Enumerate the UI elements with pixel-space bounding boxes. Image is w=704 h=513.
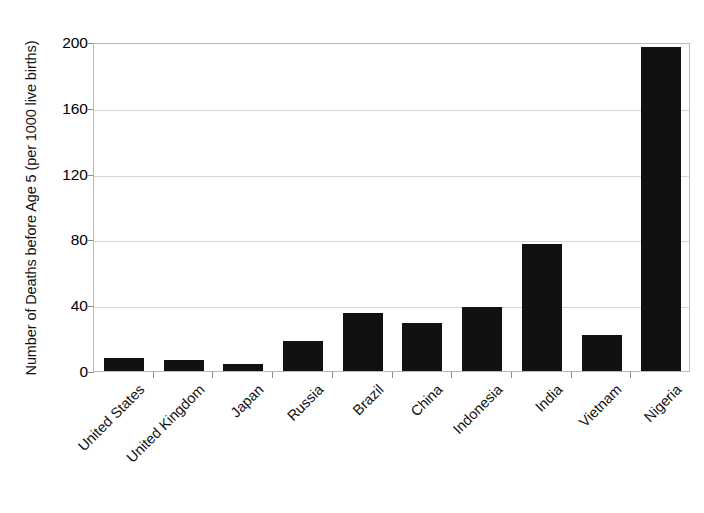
gridline [94, 176, 689, 177]
bar [402, 323, 442, 371]
x-tick-mark [451, 372, 452, 378]
gridline [94, 307, 689, 308]
x-tick-mark [212, 372, 213, 378]
x-axis-label: United States [24, 382, 148, 506]
plot-area [93, 43, 690, 372]
bar [582, 335, 622, 371]
y-tick-label: 40 [8, 298, 88, 314]
bar [164, 360, 204, 372]
x-axis-label: Japan [143, 382, 267, 506]
y-tick-label: 0 [8, 364, 88, 380]
x-tick-mark [630, 372, 631, 378]
y-tick-mark [87, 372, 94, 373]
x-tick-mark [153, 372, 154, 378]
x-tick-mark [511, 372, 512, 378]
bar [462, 307, 502, 371]
y-axis-title: Number of Deaths before Age 5 (per 1000 … [20, 18, 42, 398]
x-axis-label: China [322, 382, 446, 506]
x-axis-label: Russia [203, 382, 327, 506]
y-tick-label: 120 [8, 167, 88, 183]
gridline [94, 110, 689, 111]
bar [522, 244, 562, 371]
bar [223, 364, 263, 371]
x-tick-mark [571, 372, 572, 378]
x-tick-mark [392, 372, 393, 378]
x-axis-label: Brazil [263, 382, 387, 506]
bar [343, 313, 383, 371]
bar [283, 341, 323, 371]
x-tick-mark [272, 372, 273, 378]
x-axis-label: Vietnam [501, 382, 625, 506]
x-tick-mark [332, 372, 333, 378]
bar [104, 358, 144, 371]
y-tick-label: 160 [8, 101, 88, 117]
x-axis-label: United Kingdom [83, 382, 207, 506]
x-axis-label: India [442, 382, 566, 506]
x-axis-label: Nigeria [561, 382, 685, 506]
y-tick-label: 80 [8, 232, 88, 248]
gridline [94, 241, 689, 242]
bar [641, 47, 681, 371]
bar-chart: Number of Deaths before Age 5 (per 1000 … [0, 0, 704, 513]
y-tick-label: 200 [8, 35, 88, 51]
x-axis-label: Indonesia [382, 382, 506, 506]
